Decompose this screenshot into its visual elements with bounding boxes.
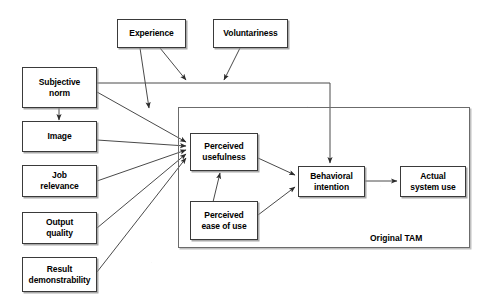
node-output-quality[interactable]: Output quality <box>22 212 97 244</box>
edge-image-pu <box>97 140 186 146</box>
original-tam-label: Original TAM <box>370 233 422 243</box>
node-perceived-usefulness[interactable]: Perceived usefulness <box>190 133 258 171</box>
node-behavioral-intention[interactable]: Behavioral intention <box>298 166 365 197</box>
edge-exp-snpu <box>140 48 149 108</box>
edge-exp-snbi <box>160 48 186 80</box>
node-actual-system-use[interactable]: Actual system use <box>400 166 466 197</box>
node-image[interactable]: Image <box>22 121 97 152</box>
node-job-relevance[interactable]: Job relevance <box>22 165 97 197</box>
node-voluntariness[interactable]: Voluntariness <box>213 19 288 48</box>
edge-rd-pu <box>97 158 186 272</box>
node-experience[interactable]: Experience <box>117 19 186 48</box>
node-perceived-ease-of-use[interactable]: Perceived ease of use <box>190 201 258 240</box>
diagram-canvas: Original TAM <box>0 0 488 305</box>
node-result-demonstrability[interactable]: Result demonstrability <box>22 257 97 292</box>
edge-sn-pu <box>97 92 186 142</box>
node-subjective-norm[interactable]: Subjective norm <box>22 67 97 108</box>
edge-vol-snbi <box>224 48 240 80</box>
